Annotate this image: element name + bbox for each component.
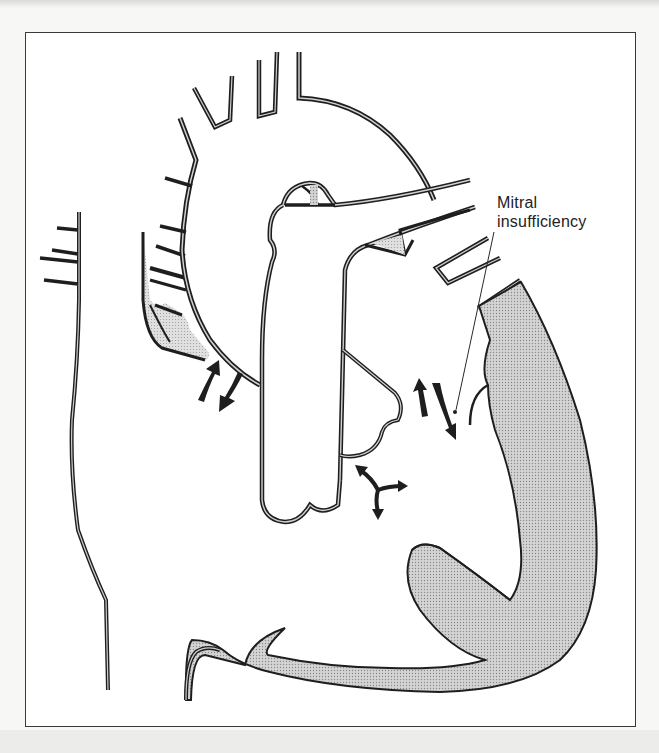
annotation-label-line2: insufficiency xyxy=(497,212,586,231)
aortic-arch xyxy=(160,52,434,385)
outflow-tract xyxy=(340,207,475,480)
ventricular-flow-arrows xyxy=(360,470,404,512)
ascending-aorta xyxy=(262,205,340,522)
heart-diagram xyxy=(0,0,659,753)
left-ventricle-wall xyxy=(186,282,597,700)
annotation-label-line1: Mitral xyxy=(497,193,537,212)
left-atrium xyxy=(340,350,401,457)
ventricular-flow-arrowheads xyxy=(355,465,408,520)
mitral-flow-arrows xyxy=(413,378,456,440)
page-bottom-edge xyxy=(0,730,659,753)
right-atrium-appendage xyxy=(143,232,209,361)
pulmonary-trunk xyxy=(283,180,470,205)
superior-vena-cava xyxy=(40,212,108,690)
